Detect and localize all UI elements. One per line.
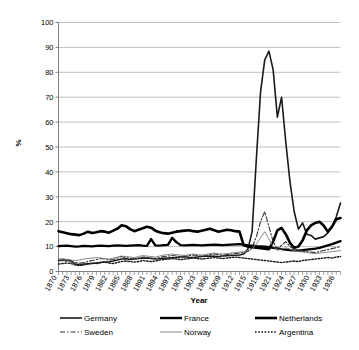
gridlines xyxy=(59,23,341,247)
y-tick-label: 30 xyxy=(45,193,53,202)
legend-label-germany: Germany xyxy=(84,314,117,323)
legend-label-netherlands: Netherlands xyxy=(279,314,322,323)
y-tick-label: 90 xyxy=(45,43,53,52)
line-chart: 0102030405060708090100 18701873187618791… xyxy=(0,0,359,350)
y-tick-label: 100 xyxy=(41,18,54,27)
y-axis-ticks: 0102030405060708090100 xyxy=(41,18,59,276)
chart-figure: 0102030405060708090100 18701873187618791… xyxy=(0,0,359,350)
chart-legend: GermanyFranceNetherlandsSwedenNorwayArge… xyxy=(60,314,322,337)
y-axis-label: % xyxy=(14,139,23,146)
y-tick-label: 10 xyxy=(45,242,53,251)
legend-label-argentina: Argentina xyxy=(279,328,314,337)
series-line-germany xyxy=(59,51,341,264)
y-axis-title: % xyxy=(14,139,23,146)
legend-label-norway: Norway xyxy=(184,328,211,337)
x-axis-ticks: 1870187318761879188218851888189118941897… xyxy=(43,272,341,293)
y-tick-label: 60 xyxy=(45,118,53,127)
y-tick-label: 20 xyxy=(45,218,53,227)
legend-label-france: France xyxy=(184,314,209,323)
y-tick-label: 40 xyxy=(45,168,53,177)
x-axis-title: Year xyxy=(191,296,208,305)
x-tick-label: 1936 xyxy=(320,274,336,293)
y-tick-label: 70 xyxy=(45,93,53,102)
data-series xyxy=(59,51,341,265)
series-line-france xyxy=(59,238,341,251)
y-tick-label: 50 xyxy=(45,143,53,152)
series-line-sweden xyxy=(59,212,341,263)
x-axis-label: Year xyxy=(191,296,208,305)
legend-label-sweden: Sweden xyxy=(84,328,113,337)
y-tick-label: 80 xyxy=(45,68,53,77)
